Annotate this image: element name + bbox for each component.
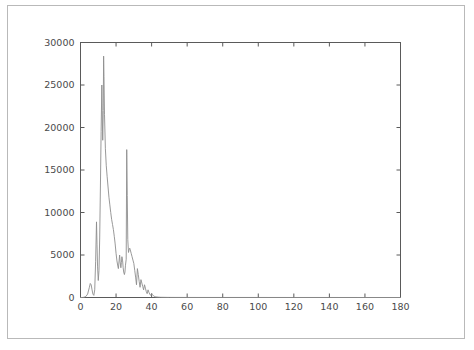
x-tick-label: 120 — [285, 301, 303, 312]
chart-plot: 020406080100120140160180 050001000015000… — [0, 0, 474, 350]
y-tick-label: 25000 — [44, 79, 74, 90]
x-tick-label: 60 — [181, 301, 193, 312]
x-tick-label: 160 — [356, 301, 374, 312]
y-tick-label: 15000 — [44, 164, 74, 175]
y-tick-label: 30000 — [44, 37, 74, 48]
y-tick-label: 20000 — [44, 122, 74, 133]
x-tick-label: 40 — [146, 301, 158, 312]
x-tick-label: 140 — [320, 301, 338, 312]
x-tick-label: 20 — [110, 301, 122, 312]
x-tick-label: 0 — [77, 301, 83, 312]
y-tick-label: 5000 — [50, 249, 74, 260]
x-tick-label: 80 — [217, 301, 229, 312]
figure-canvas: 020406080100120140160180 050001000015000… — [0, 0, 474, 350]
axes-frame — [81, 43, 401, 298]
y-tick-label: 10000 — [44, 207, 74, 218]
data-series-line — [81, 56, 401, 297]
x-tick-label: 180 — [391, 301, 409, 312]
y-tick-label: 0 — [68, 292, 74, 303]
x-tick-label: 100 — [249, 301, 267, 312]
